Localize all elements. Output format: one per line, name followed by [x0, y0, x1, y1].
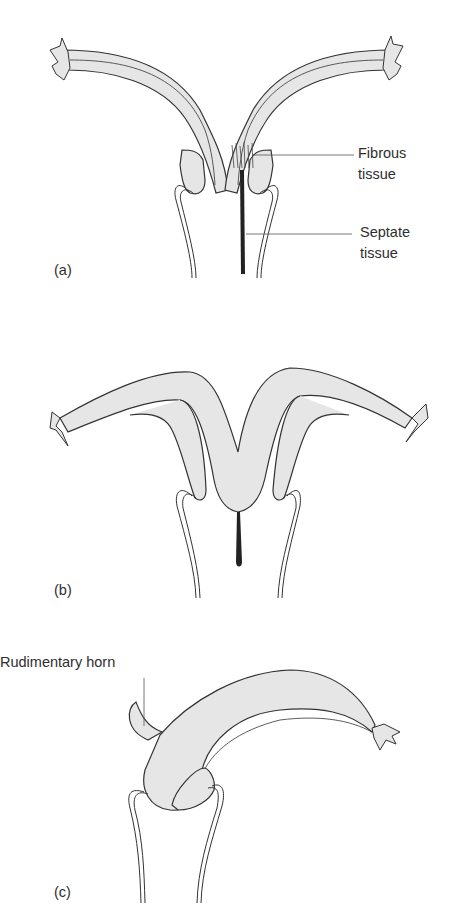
- panel-letter-c: (c): [54, 884, 71, 900]
- panel-letter-b: (b): [54, 582, 72, 598]
- septate-tissue-label-line2: tissue: [360, 243, 410, 264]
- fibrous-tissue-label-line1: Fibrous: [358, 143, 406, 164]
- fibrous-tissue-label-line2: tissue: [358, 164, 406, 185]
- bicornuate-uterus-diagram: [0, 300, 453, 620]
- septate-tissue-label: Septate tissue: [360, 222, 410, 264]
- panel-b: (b): [0, 300, 453, 620]
- panel-c: Rudimentary horn (c): [0, 640, 453, 908]
- fibrous-tissue-label: Fibrous tissue: [358, 143, 406, 185]
- rudimentary-horn-label: Rudimentary horn: [0, 652, 115, 673]
- panel-a: Fibrous tissue Septate tissue (a): [0, 0, 453, 300]
- panel-letter-a: (a): [54, 262, 72, 278]
- unicornuate-uterus-diagram: [0, 640, 453, 908]
- septate-tissue-label-line1: Septate: [360, 222, 410, 243]
